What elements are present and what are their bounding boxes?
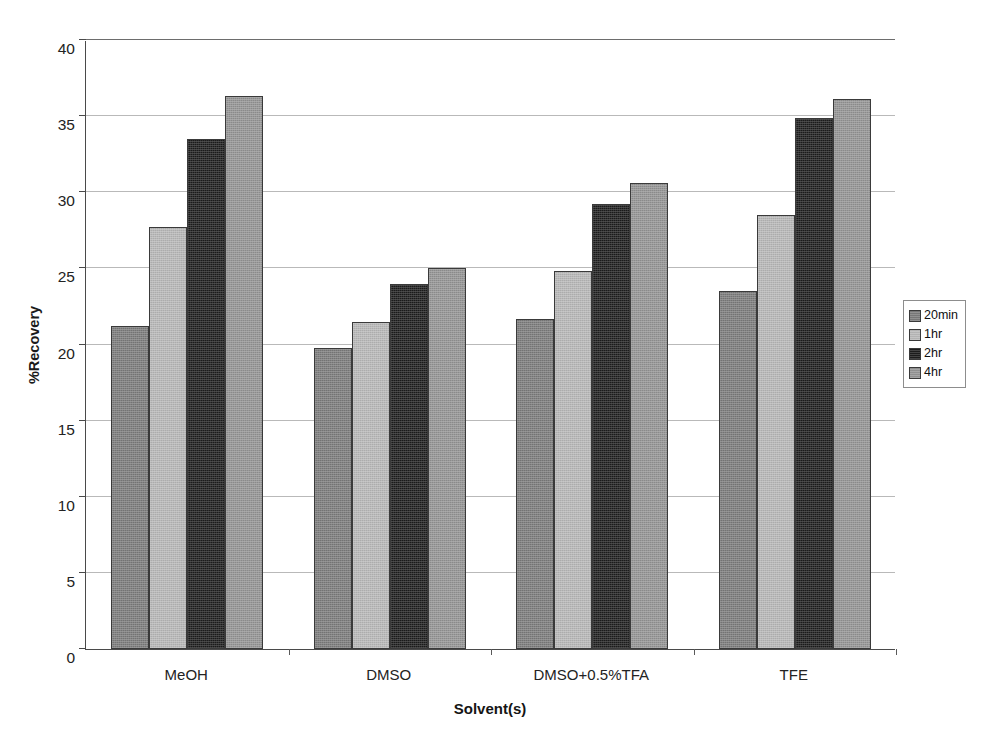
legend-label: 4hr: [924, 366, 942, 379]
bar: [428, 268, 466, 649]
y-tick-mark: [79, 420, 86, 421]
y-axis-title: %Recovery: [26, 306, 42, 384]
x-axis-title: Solvent(s): [454, 700, 527, 717]
gridline: [86, 115, 895, 116]
bar: [554, 271, 592, 649]
y-tick-mark: [79, 39, 86, 40]
x-axis-label-tfe: TFE: [780, 666, 808, 683]
bar: [187, 139, 225, 649]
x-tick-mark: [896, 649, 897, 655]
y-tick-mark: [79, 572, 86, 573]
x-tick-mark: [694, 649, 695, 655]
legend-item: 2hr: [909, 344, 961, 363]
plot-area: 0510152025303540: [85, 41, 895, 650]
y-tick-mark: [79, 496, 86, 497]
legend-item: 4hr: [909, 363, 961, 382]
y-tick-mark: [79, 648, 86, 649]
x-axis-label-dmso-0-5-tfa: DMSO+0.5%TFA: [534, 666, 649, 683]
bar: [314, 348, 352, 649]
legend-item: 1hr: [909, 325, 961, 344]
y-tick-mark: [79, 344, 86, 345]
y-tick-mark: [79, 115, 86, 116]
legend-item: 20min: [909, 306, 961, 325]
bar: [719, 291, 757, 649]
legend-label: 20min: [924, 309, 958, 322]
bar: [795, 118, 833, 649]
legend-swatch-icon: [909, 367, 921, 379]
bar: [833, 99, 871, 649]
legend-swatch-icon: [909, 348, 921, 360]
bar: [516, 319, 554, 649]
bar: [352, 322, 390, 649]
x-axis-label-meoh: MeOH: [165, 666, 208, 683]
bar: [630, 183, 668, 649]
legend-swatch-icon: [909, 310, 921, 322]
x-tick-mark: [491, 649, 492, 655]
gridline: [86, 39, 895, 40]
y-tick-mark: [79, 267, 86, 268]
bar: [225, 96, 263, 649]
bar-chart: %Recovery 0510152025303540 MeOHDMSODMSO+…: [0, 0, 1007, 732]
x-axis-label-dmso: DMSO: [366, 666, 411, 683]
legend: 20min1hr2hr4hr: [903, 300, 966, 388]
bar: [111, 326, 149, 649]
bar: [390, 284, 428, 649]
y-tick-mark: [79, 191, 86, 192]
bar: [592, 204, 630, 649]
legend-swatch-icon: [909, 329, 921, 341]
x-tick-mark: [289, 649, 290, 655]
bar: [757, 215, 795, 649]
legend-label: 2hr: [924, 347, 942, 360]
bar: [149, 227, 187, 649]
legend-label: 1hr: [924, 328, 942, 341]
